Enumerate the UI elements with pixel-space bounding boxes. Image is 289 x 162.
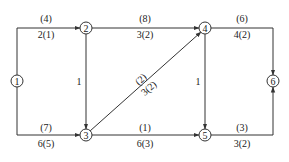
node-3: 3 (80, 129, 92, 141)
edge-3-5-top-label: (1) (139, 122, 151, 134)
edge-5-6-top-label: (3) (236, 122, 248, 134)
edge-4-5-label: 1 (196, 76, 201, 87)
edge-2-3-label: 1 (77, 76, 82, 87)
edge-1-3-bottom-label: 6(5) (38, 138, 55, 150)
node-5-label: 5 (203, 130, 208, 141)
edge-4-6-top-label: (6) (236, 13, 248, 25)
edge-2-4-top-label: (8) (139, 13, 151, 25)
node-1: 1 (11, 75, 23, 87)
node-6-label: 6 (271, 76, 276, 87)
edge-5-6-bottom-label: 3(2) (234, 138, 251, 150)
edge-1-2-top-label: (4) (40, 13, 52, 25)
node-2: 2 (80, 22, 92, 34)
node-2-label: 2 (84, 23, 89, 34)
edge-2-4-bottom-label: 3(2) (137, 29, 154, 41)
node-4-label: 4 (203, 23, 208, 34)
node-1-label: 1 (15, 76, 20, 87)
edge-4-6-bottom-label: 4(2) (234, 29, 251, 41)
node-6: 6 (267, 75, 279, 87)
diagram-svg: (4) 2(1) (7) 6(5) (8) 3(2) 1 (2) 3(2) (1… (0, 0, 289, 162)
edge-1-3-top-label: (7) (40, 122, 52, 134)
edge-1-2-bottom-label: 2(1) (38, 29, 55, 41)
node-4: 4 (199, 22, 211, 34)
network-diagram: (4) 2(1) (7) 6(5) (8) 3(2) 1 (2) 3(2) (1… (0, 0, 289, 162)
node-5: 5 (199, 129, 211, 141)
edge-3-5-bottom-label: 6(3) (137, 138, 154, 150)
node-3-label: 3 (84, 130, 89, 141)
